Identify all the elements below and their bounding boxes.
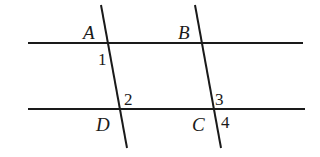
angle-label-4: 4 — [221, 113, 230, 132]
point-label-d: D — [95, 114, 110, 135]
point-label-c: C — [192, 114, 205, 135]
geometry-diagram: A B D C 1 2 3 4 — [0, 0, 320, 157]
point-label-b: B — [178, 22, 190, 43]
point-label-a: A — [81, 22, 95, 43]
angle-label-3: 3 — [215, 90, 224, 109]
angle-label-1: 1 — [98, 50, 107, 69]
angle-label-2: 2 — [124, 90, 133, 109]
